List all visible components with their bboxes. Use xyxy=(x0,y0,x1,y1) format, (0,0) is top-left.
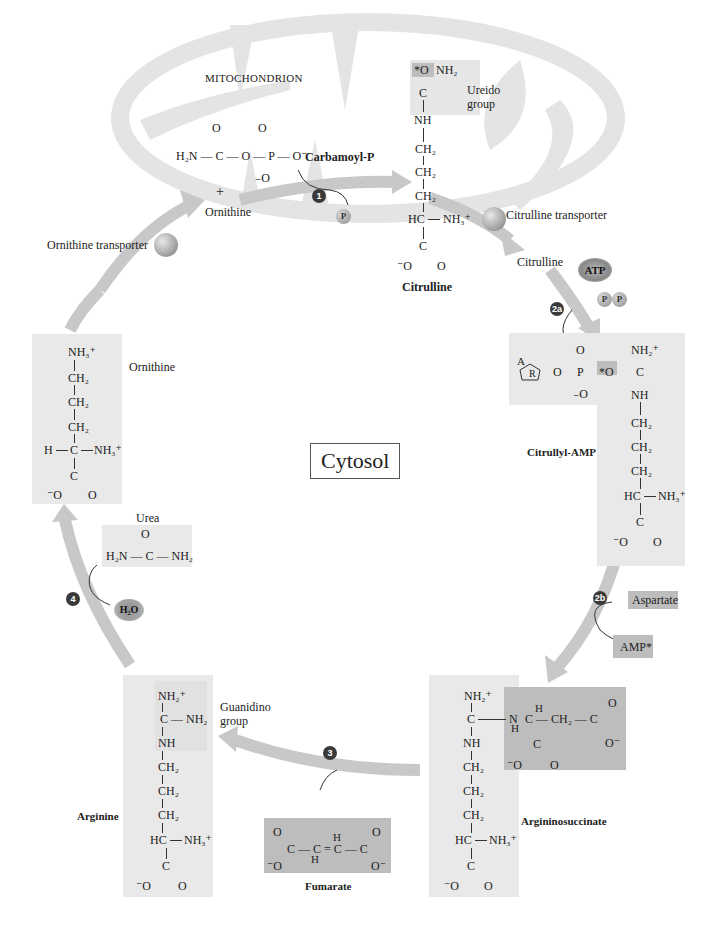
atom-nh: NH xyxy=(631,389,648,401)
bond xyxy=(423,227,424,239)
bond xyxy=(74,360,75,371)
atom-ch2: CH₂ xyxy=(631,441,652,453)
atom-ch2: CH₂ xyxy=(463,809,484,821)
atom-o-minus: ⁻O xyxy=(136,880,151,892)
guanidino-group-label: Guanidinogroup xyxy=(220,700,271,728)
cytosol-label: Cytosol xyxy=(310,443,400,479)
bond xyxy=(74,409,75,420)
atom-o: O xyxy=(608,697,617,709)
pyrophosphate-p2-icon: P xyxy=(612,292,627,307)
atom-star-o: *O xyxy=(414,64,429,76)
citrulline-cytosol-label: Citrulline xyxy=(517,255,563,270)
atom-c: C xyxy=(467,860,475,872)
atom-star-o: *O xyxy=(599,366,614,378)
atom-o: O xyxy=(212,122,221,134)
atom-h: H xyxy=(511,723,519,734)
atom-ch2: CH₂ xyxy=(158,785,179,797)
aspartate-label: Aspartate xyxy=(632,593,678,608)
bond xyxy=(162,799,163,808)
atom-c: C xyxy=(467,713,475,725)
urea-formula: H₂N — C — NH₂ xyxy=(106,550,193,562)
step-4-badge: 4 xyxy=(66,592,80,606)
citrulline-label: Citrulline xyxy=(402,280,452,295)
atom-ch2: CH₂ xyxy=(158,761,179,773)
step-2a-badge: 2a xyxy=(550,302,564,316)
atom-nh3: NH₃⁺ xyxy=(94,444,122,456)
atom-nh: NH xyxy=(414,114,431,126)
bond xyxy=(471,775,472,784)
atom-ch2: CH₂ xyxy=(631,417,652,429)
atom-nh3: NH₃⁺ xyxy=(184,834,212,846)
bond xyxy=(166,848,167,859)
atom-nh2: NH₂ xyxy=(436,64,458,76)
bond xyxy=(170,840,182,841)
atom-ch2: CH₂ xyxy=(68,372,89,384)
atom-ch2: CH₂ xyxy=(158,809,179,821)
atom-c: C xyxy=(533,738,541,750)
atom-o: O xyxy=(88,489,97,501)
atom-o-minus: O⁻ xyxy=(371,860,386,872)
atom-c: C xyxy=(162,860,170,872)
atom-o-minus: ⁻O xyxy=(507,759,522,771)
atom-o-minus: ⁻O xyxy=(444,880,459,892)
atom-ch2: CH₂ xyxy=(415,190,436,202)
atom-ch2: CH₂ xyxy=(463,761,484,773)
citrulline-transporter-label: Citrulline transporter xyxy=(506,208,607,223)
bond xyxy=(74,458,75,469)
citrullyl-amp-label: Citrullyl-AMP xyxy=(527,446,596,458)
atom-o: O xyxy=(141,528,150,540)
bond xyxy=(423,156,424,165)
carbamoyl-p-label: Carbamoyl-P xyxy=(305,150,374,165)
atom-ch2: CH₂ xyxy=(415,143,436,155)
ureido-group-label: Ureidogroup xyxy=(467,83,500,111)
bond xyxy=(423,203,424,212)
ornithine-transporter-label: Ornithine transporter xyxy=(47,238,148,253)
atom-o: O xyxy=(273,826,282,838)
bond xyxy=(644,496,656,497)
arrow-step-3 xyxy=(218,726,420,770)
atom-ch2: CH₂ xyxy=(415,166,436,178)
atom-c: C xyxy=(419,87,427,99)
atom-o: O xyxy=(653,536,662,548)
atom-nh: NH xyxy=(463,737,480,749)
atom-o-minus: ⁻O xyxy=(613,536,628,548)
ornithine-mito-label: Ornithine xyxy=(205,205,251,220)
atom-o-minus: ⁻O xyxy=(267,860,282,872)
atom-c: C xyxy=(636,516,644,528)
atom-hc: HC xyxy=(150,834,167,846)
bond xyxy=(640,454,641,464)
atom-h: H xyxy=(311,854,319,865)
atom-c-nh2: C — NH₂ xyxy=(160,713,208,725)
fumarate-row: C — C = C — C xyxy=(287,843,368,855)
ornithine-transporter-ball xyxy=(154,233,178,257)
atom-o-minus: O⁻ xyxy=(605,737,620,749)
atom-c: C xyxy=(70,470,78,482)
atom-o-minus: ₋O xyxy=(255,172,270,184)
step-2b-badge: 2b xyxy=(593,591,607,605)
bond xyxy=(640,402,641,415)
pyrophosphate-p1-icon: P xyxy=(597,292,612,307)
curve-step-2b xyxy=(595,602,615,640)
atom-nh3: NH₃⁺ xyxy=(443,213,471,225)
curve-step-3 xyxy=(320,770,337,790)
bond xyxy=(56,450,68,451)
bond xyxy=(423,128,424,142)
atom-o: O xyxy=(437,260,446,272)
urea-label: Urea xyxy=(136,511,159,526)
arginine-label: Arginine xyxy=(77,810,119,822)
bond xyxy=(478,719,506,720)
ureido-label-line1: Ureido xyxy=(467,83,500,97)
atom-c: C xyxy=(70,444,78,456)
bond xyxy=(471,823,472,833)
atom-o: O xyxy=(550,759,559,771)
bond xyxy=(162,727,163,736)
atom-r: R xyxy=(529,369,536,379)
atp-icon: ATP xyxy=(578,258,612,282)
bond xyxy=(81,450,93,451)
carbamoyl-p-formula: H₂N — C — O — P — O⁻ xyxy=(176,150,307,162)
bond xyxy=(162,775,163,784)
bond xyxy=(640,430,641,440)
ornithine-label: Ornithine xyxy=(129,360,175,375)
atom-nh3: NH₃⁺ xyxy=(68,346,96,358)
mitochondrion-label: MITOCHONDRION xyxy=(205,72,303,84)
